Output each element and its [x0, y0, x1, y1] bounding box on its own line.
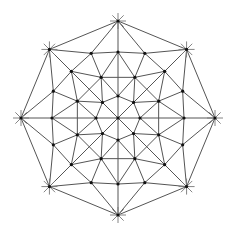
mesh-node [133, 76, 136, 79]
mesh-edge [101, 140, 118, 159]
mesh-edge [118, 96, 134, 102]
mesh-edge [91, 53, 101, 77]
mesh-edge [183, 118, 215, 145]
mesh-node [181, 143, 184, 146]
mesh-node [163, 70, 166, 73]
mesh-node [90, 52, 93, 55]
mesh-node [116, 182, 119, 185]
mesh-node [181, 90, 184, 93]
mesh-edge [118, 159, 135, 184]
mesh-edge [159, 135, 183, 145]
mesh-edge [102, 118, 118, 134]
mesh-node [116, 19, 119, 22]
mesh-node [116, 213, 119, 216]
mesh-edge [49, 145, 53, 187]
mesh-edge [140, 118, 159, 135]
mesh-node [182, 116, 185, 119]
mesh-node [132, 101, 135, 104]
mesh-node [116, 138, 119, 141]
mesh-node [101, 101, 104, 104]
mesh-edge [134, 77, 135, 102]
mesh-node [101, 132, 104, 135]
mesh-edge [71, 71, 102, 102]
mesh-node [116, 94, 119, 97]
mesh-edge [101, 134, 102, 159]
mesh-node [116, 50, 119, 53]
mesh-edge [77, 101, 96, 118]
mesh-edge [49, 21, 118, 49]
mesh-node [163, 163, 166, 166]
mesh-edge [134, 134, 135, 159]
mesh-node [143, 52, 146, 55]
mesh-edge [52, 118, 53, 145]
mesh-edge [91, 183, 118, 215]
mesh-edge [118, 21, 145, 53]
mesh-node [185, 48, 188, 51]
mesh-edge [71, 53, 91, 71]
mesh-edge [118, 183, 145, 184]
mesh-edge [96, 118, 102, 134]
mesh-edge [77, 118, 96, 135]
mesh-node [76, 133, 79, 136]
mesh-edge [21, 49, 49, 118]
mesh-edge [159, 91, 183, 101]
mesh-edge [183, 49, 187, 91]
mesh-edge [134, 102, 140, 118]
mesh-edge [145, 165, 165, 183]
mesh-node [50, 116, 53, 119]
mesh-edge [71, 134, 102, 165]
mesh-node [100, 76, 103, 79]
mesh-edge [53, 135, 77, 145]
mesh-edge [145, 49, 187, 53]
mesh-edge [135, 53, 145, 77]
mesh-edge [102, 96, 118, 102]
mesh-edge [52, 101, 77, 118]
mesh-node [143, 181, 146, 184]
mesh-edge [49, 49, 91, 53]
mesh-edge [102, 102, 118, 118]
mesh-edge [49, 49, 53, 91]
mesh-diagram [0, 0, 236, 237]
mesh-edge [118, 52, 145, 53]
mesh-node [157, 100, 160, 103]
mesh-edge [118, 140, 135, 159]
mesh-edge [187, 118, 215, 187]
mesh-edge [145, 183, 187, 187]
mesh-edge [134, 134, 165, 165]
mesh-edge [118, 77, 135, 96]
mesh-edge [183, 118, 184, 145]
mesh-node [19, 116, 22, 119]
mesh-node [185, 185, 188, 188]
mesh-node [48, 185, 51, 188]
mesh-edge [118, 102, 134, 118]
mesh-node [48, 48, 51, 51]
mesh-edge [53, 145, 71, 165]
mesh-edge [118, 118, 134, 134]
mesh-node [138, 116, 141, 119]
mesh-edge [118, 134, 134, 140]
mesh-edge [145, 53, 165, 71]
mesh-edge [91, 52, 118, 53]
mesh-svg [0, 0, 236, 237]
mesh-node [70, 163, 73, 166]
mesh-node [70, 70, 73, 73]
mesh-edge [21, 118, 53, 145]
mesh-edge [118, 183, 145, 215]
mesh-edge [52, 91, 53, 118]
mesh-edge [140, 101, 159, 118]
mesh-edge [49, 187, 118, 215]
mesh-edge [96, 102, 102, 118]
mesh-node [90, 181, 93, 184]
mesh-edge [134, 134, 159, 135]
mesh-edge [159, 101, 184, 118]
mesh-edge [134, 101, 159, 102]
mesh-edge [118, 187, 187, 215]
mesh-edge [159, 118, 184, 135]
mesh-edge [49, 183, 91, 187]
mesh-edge [101, 52, 118, 77]
mesh-node [100, 157, 103, 160]
mesh-node [133, 157, 136, 160]
mesh-edge [71, 165, 91, 183]
mesh-edge [183, 91, 215, 118]
mesh-node [213, 116, 216, 119]
